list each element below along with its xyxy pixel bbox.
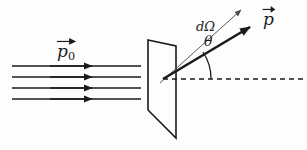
scattered-momentum-label: p — [263, 11, 274, 28]
scattering-angle-arc — [203, 52, 211, 79]
solid-angle-label: dΩ — [196, 20, 215, 33]
incident-beam-group — [12, 66, 141, 99]
incident-momentum-symbol: p — [57, 41, 68, 61]
vector-accent-group: p0 — [57, 43, 75, 60]
target-plane — [148, 40, 176, 138]
scattering-angle-label: θ — [204, 34, 212, 48]
scattering-diagram-canvas — [0, 0, 307, 150]
incident-momentum-label: p0 — [57, 43, 75, 60]
scattered-momentum-symbol: p — [263, 9, 274, 29]
scattering-diagram-figure: p0 p dΩ θ — [0, 0, 307, 150]
incident-momentum-subscript: 0 — [68, 50, 75, 63]
vector-accent-group: p — [263, 11, 274, 28]
